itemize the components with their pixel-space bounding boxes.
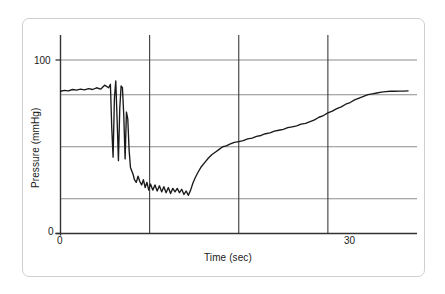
- x-tick-label-30: 30: [344, 235, 355, 246]
- y-tick-label-100: 100: [34, 55, 51, 66]
- x-tick-label-0: 0: [57, 235, 63, 246]
- axis-tick-marks: [56, 60, 61, 234]
- figure-root: Pressure (mmHg) Time (sec) 100 0 0 30: [0, 0, 445, 294]
- vertical-gridlines: [150, 35, 328, 234]
- y-axis-title: Pressure (mmHg): [30, 108, 41, 188]
- axis-lines: [56, 35, 418, 236]
- x-axis-title: Time (sec): [204, 252, 252, 263]
- line-chart-plot: [0, 0, 445, 294]
- pressure-curve: [61, 81, 409, 196]
- y-tick-label-0: 0: [48, 226, 54, 237]
